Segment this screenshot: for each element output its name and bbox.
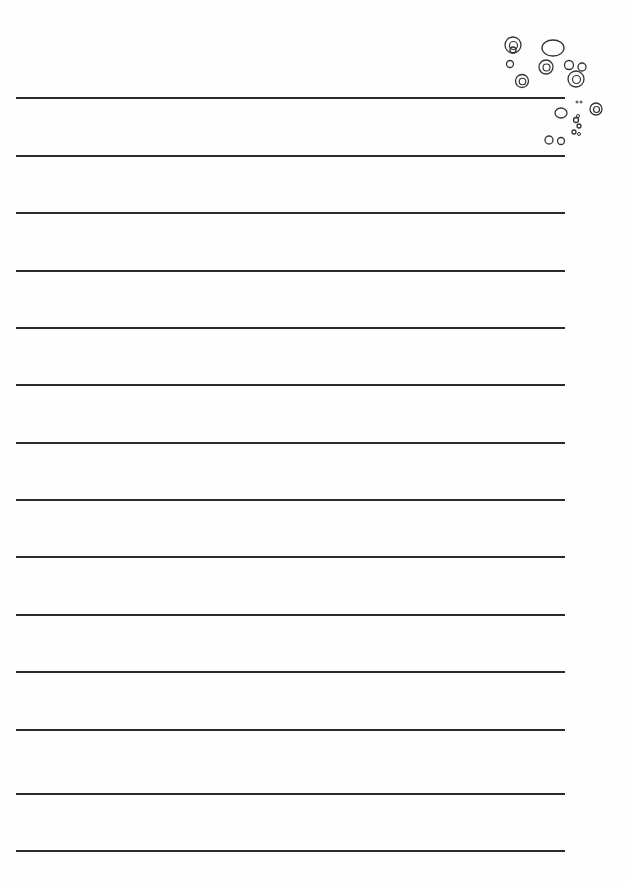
ruled-line xyxy=(16,327,565,329)
ruled-line xyxy=(16,614,565,616)
ruled-line xyxy=(16,212,565,214)
bubbles-decoration-icon xyxy=(0,0,630,200)
ruled-line xyxy=(16,729,565,731)
ruled-line xyxy=(16,97,565,99)
lined-paper-page xyxy=(0,0,630,883)
ruled-line xyxy=(16,442,565,444)
ruled-line xyxy=(16,671,565,673)
ruled-line xyxy=(16,384,565,386)
ruled-line xyxy=(16,155,565,157)
ruled-line xyxy=(16,850,565,852)
ruled-line xyxy=(16,270,565,272)
ruled-line xyxy=(16,556,565,558)
ruled-line xyxy=(16,793,565,795)
ruled-line xyxy=(16,499,565,501)
